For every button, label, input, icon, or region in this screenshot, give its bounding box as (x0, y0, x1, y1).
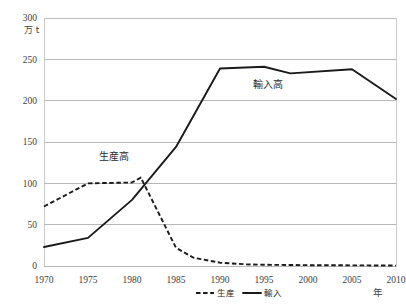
x-tick-label: 2010 (387, 275, 406, 285)
legend-label-生産: 生産 (217, 288, 235, 298)
series-annotation: 輸入高 (253, 78, 283, 90)
y-axis-unit-label: 万 t (24, 25, 40, 35)
x-tick-label: 2000 (299, 275, 318, 285)
x-tick-label: 1970 (35, 275, 54, 285)
y-tick-label: 300 (23, 13, 38, 23)
x-axis-unit-label: 年 (373, 287, 383, 298)
y-tick-label: 200 (23, 96, 38, 106)
x-tick-label: 1975 (79, 275, 98, 285)
x-tick-label: 1995 (255, 275, 274, 285)
chart-container: 050100150200250300 197019751980198519901… (0, 0, 406, 304)
y-tick-label: 100 (23, 179, 38, 189)
y-tick-label: 250 (23, 55, 38, 65)
x-tick-label: 1980 (123, 275, 142, 285)
y-tick-label: 150 (23, 137, 38, 147)
chart-background (0, 0, 406, 304)
x-tick-label: 2005 (343, 275, 362, 285)
x-tick-label: 1985 (167, 275, 186, 285)
x-axis-tick-labels: 197019751980198519901995200020052010 (35, 275, 406, 285)
line-chart: 050100150200250300 197019751980198519901… (0, 0, 406, 304)
series-annotation: 生産高 (99, 150, 129, 162)
y-tick-label: 0 (32, 261, 37, 271)
x-tick-label: 1990 (211, 275, 230, 285)
legend-label-輸入: 輸入 (264, 288, 282, 298)
y-tick-label: 50 (28, 220, 38, 230)
